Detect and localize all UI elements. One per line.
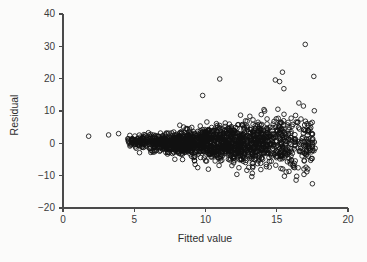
data-point <box>299 117 304 122</box>
x-tick-label: 20 <box>342 214 354 225</box>
data-point <box>296 125 301 130</box>
data-point <box>289 116 294 121</box>
outlier-data-point <box>277 79 282 84</box>
data-point <box>262 107 267 112</box>
x-axis-title: Fitted value <box>178 232 232 244</box>
data-point <box>217 163 222 168</box>
outlier-data-point <box>235 172 240 177</box>
residual-plot-figure: −20−1001020304005101520 Fitted value Res… <box>0 0 367 262</box>
isolated-data-point <box>116 131 121 136</box>
data-point <box>273 163 278 168</box>
data-point <box>271 122 276 127</box>
outlier-data-point <box>312 74 317 79</box>
isolated-data-point <box>86 134 91 139</box>
data-point <box>265 117 270 122</box>
data-point <box>238 113 243 118</box>
data-point <box>259 167 264 172</box>
x-tick-label: 10 <box>200 214 212 225</box>
data-point <box>267 165 272 170</box>
data-point <box>282 174 287 179</box>
data-point <box>265 122 270 127</box>
y-tick-label: 0 <box>49 138 55 149</box>
data-point <box>301 104 306 109</box>
data-point <box>195 165 200 170</box>
y-axis-title: Residual <box>8 95 20 136</box>
data-point <box>205 120 210 125</box>
x-tick-label: 15 <box>271 214 283 225</box>
data-point <box>282 112 287 117</box>
outlier-data-point <box>310 181 315 186</box>
y-tick-label: 30 <box>44 41 56 52</box>
x-tick-label: 5 <box>131 214 137 225</box>
data-point <box>137 150 142 155</box>
data-point <box>237 165 242 170</box>
y-tick-label: 10 <box>44 105 56 116</box>
isolated-data-point <box>106 133 111 138</box>
data-point <box>297 101 302 106</box>
data-point <box>250 174 255 179</box>
y-tick-label: 20 <box>44 73 56 84</box>
outlier-data-point <box>217 77 222 82</box>
data-points-group <box>86 42 317 186</box>
y-tick-label: 40 <box>44 8 56 19</box>
data-point <box>293 113 298 118</box>
data-point <box>312 108 317 113</box>
axes-group: −20−1001020304005101520 <box>38 8 354 225</box>
data-point <box>276 107 281 112</box>
data-point <box>287 169 292 174</box>
y-tick-label: −20 <box>38 202 55 213</box>
outlier-data-point <box>303 42 308 47</box>
data-point <box>173 157 178 162</box>
outlier-data-point <box>206 167 211 172</box>
data-point <box>305 169 310 174</box>
data-point <box>302 172 307 177</box>
outlier-data-point <box>280 70 285 75</box>
y-tick-label: −10 <box>38 170 55 181</box>
outlier-data-point <box>200 93 205 98</box>
x-tick-label: 0 <box>60 214 66 225</box>
data-point <box>251 118 256 123</box>
outlier-data-point <box>282 86 287 91</box>
scatter-plot-canvas: −20−1001020304005101520 Fitted value Res… <box>0 0 367 262</box>
data-point <box>180 157 185 162</box>
